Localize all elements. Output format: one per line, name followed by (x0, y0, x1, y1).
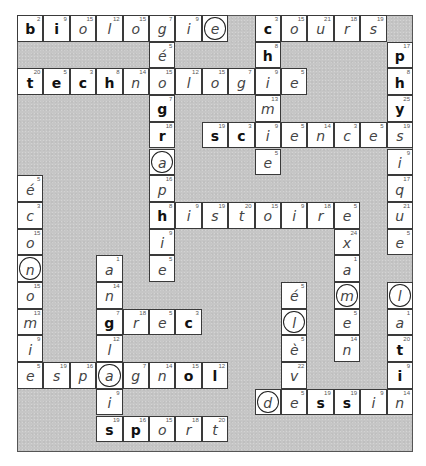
crossword-cell[interactable]: 16p (123, 416, 149, 443)
crossword-cell[interactable]: 15o (281, 15, 307, 42)
crossword-cell[interactable]: 5e (17, 362, 43, 389)
crossword-cell[interactable]: 17p (387, 42, 413, 69)
crossword-cell[interactable]: 5e (360, 122, 386, 149)
crossword-cell[interactable]: 19s (202, 122, 228, 149)
crossword-cell[interactable]: 5e (281, 122, 307, 149)
crossword-cell[interactable]: 8h (96, 68, 122, 95)
crossword-cell[interactable]: 1a (334, 255, 360, 282)
crossword-cell[interactable]: 9i (175, 202, 201, 229)
crossword-cell[interactable]: 7g (228, 68, 254, 95)
crossword-cell[interactable]: 5é (17, 175, 43, 202)
crossword-cell[interactable]: 24x (334, 229, 360, 256)
crossword-cell[interactable]: 16p (149, 175, 175, 202)
crossword-cell[interactable]: 7g (96, 309, 122, 336)
crossword-cell[interactable]: 20t (228, 202, 254, 229)
crossword-cell[interactable]: d (255, 389, 281, 416)
crossword-cell[interactable]: 17q (387, 175, 413, 202)
crossword-cell[interactable]: 9i (96, 389, 122, 416)
crossword-cell[interactable]: 14n (387, 389, 413, 416)
crossword-cell[interactable]: 12l (175, 68, 201, 95)
crossword-cell[interactable]: 21u (307, 15, 333, 42)
crossword-cell[interactable]: 22v (281, 362, 307, 389)
crossword-cell[interactable]: 14n (334, 335, 360, 362)
crossword-cell[interactable]: 12l (202, 362, 228, 389)
crossword-cell[interactable]: 3c (17, 202, 43, 229)
crossword-cell[interactable]: 7g (123, 362, 149, 389)
crossword-cell[interactable]: 3c (334, 122, 360, 149)
crossword-cell[interactable]: 15o (255, 202, 281, 229)
crossword-cell[interactable]: a (96, 362, 122, 389)
crossword-cell[interactable]: 3c (228, 122, 254, 149)
crossword-cell[interactable]: 12l (96, 15, 122, 42)
crossword-cell[interactable]: 15o (70, 15, 96, 42)
crossword-cell[interactable]: 9i (360, 389, 386, 416)
crossword-cell[interactable]: 5e (334, 309, 360, 336)
crossword-cell[interactable]: 8h (387, 68, 413, 95)
crossword-cell[interactable]: 8h (149, 202, 175, 229)
crossword-cell[interactable]: 18r (175, 416, 201, 443)
crossword-cell[interactable]: 20t (387, 335, 413, 362)
crossword-cell[interactable]: 14n (149, 362, 175, 389)
crossword-cell[interactable]: 15o (175, 362, 201, 389)
crossword-cell[interactable]: 5e (387, 229, 413, 256)
crossword-cell[interactable]: 19s (387, 122, 413, 149)
crossword-cell[interactable]: 21u (387, 202, 413, 229)
crossword-cell[interactable]: l (387, 282, 413, 309)
crossword-cell[interactable]: 19s (202, 202, 228, 229)
crossword-cell[interactable]: 3c (175, 309, 201, 336)
crossword-cell[interactable]: 5è (281, 335, 307, 362)
crossword-cell[interactable]: 14n (96, 282, 122, 309)
crossword-cell[interactable]: 5e (43, 68, 69, 95)
crossword-cell[interactable]: 25y (387, 95, 413, 122)
crossword-cell[interactable]: 14n (123, 68, 149, 95)
crossword-cell[interactable]: 5é (149, 42, 175, 69)
crossword-cell[interactable]: n (17, 255, 43, 282)
crossword-cell[interactable]: 20t (17, 68, 43, 95)
crossword-cell[interactable]: 9i (17, 335, 43, 362)
crossword-cell[interactable]: 19s (96, 416, 122, 443)
crossword-cell[interactable]: 20t (202, 416, 228, 443)
crossword-cell[interactable]: 13m (255, 95, 281, 122)
crossword-cell[interactable]: m (334, 282, 360, 309)
crossword-cell[interactable]: 9i (255, 122, 281, 149)
crossword-cell[interactable]: e (202, 15, 228, 42)
crossword-cell[interactable]: 5e (281, 389, 307, 416)
crossword-cell[interactable]: 15o (17, 282, 43, 309)
crossword-cell[interactable]: 18r (307, 202, 333, 229)
crossword-cell[interactable]: 18r (149, 122, 175, 149)
crossword-cell[interactable]: 19s (43, 362, 69, 389)
crossword-cell[interactable]: 9i (387, 362, 413, 389)
crossword-cell[interactable]: 18r (334, 15, 360, 42)
crossword-cell[interactable]: 18r (123, 309, 149, 336)
crossword-cell[interactable]: 5e (334, 202, 360, 229)
crossword-cell[interactable]: 9i (387, 149, 413, 176)
crossword-cell[interactable]: 19s (307, 389, 333, 416)
crossword-cell[interactable]: 8h (255, 42, 281, 69)
crossword-cell[interactable]: 19s (360, 15, 386, 42)
crossword-cell[interactable]: 3c (70, 68, 96, 95)
crossword-cell[interactable]: 1a (96, 255, 122, 282)
crossword-cell[interactable]: 9i (255, 68, 281, 95)
crossword-cell[interactable]: 5e (149, 309, 175, 336)
crossword-cell[interactable]: 3c (255, 15, 281, 42)
crossword-cell[interactable]: 1a (387, 309, 413, 336)
crossword-cell[interactable]: 9i (43, 15, 69, 42)
crossword-cell[interactable]: 19s (334, 389, 360, 416)
crossword-cell[interactable]: 13m (17, 309, 43, 336)
crossword-cell[interactable]: 7g (149, 15, 175, 42)
crossword-cell[interactable]: 5e (281, 68, 307, 95)
crossword-cell[interactable]: 9i (281, 202, 307, 229)
crossword-cell[interactable]: l (281, 309, 307, 336)
crossword-cell[interactable]: 15o (123, 15, 149, 42)
crossword-cell[interactable]: 5e (149, 255, 175, 282)
crossword-cell[interactable]: 7g (149, 95, 175, 122)
crossword-cell[interactable]: 12l (96, 335, 122, 362)
crossword-cell[interactable]: 2b (17, 15, 43, 42)
crossword-cell[interactable]: 15o (149, 416, 175, 443)
crossword-cell[interactable]: 15o (149, 68, 175, 95)
crossword-cell[interactable]: 14n (307, 122, 333, 149)
crossword-cell[interactable]: 9i (149, 229, 175, 256)
crossword-cell[interactable]: 5é (281, 282, 307, 309)
crossword-cell[interactable]: 15o (17, 229, 43, 256)
crossword-cell[interactable]: 9i (175, 15, 201, 42)
